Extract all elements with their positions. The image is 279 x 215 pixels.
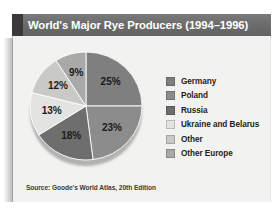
pie-svg: 25%23%18%13%12%9% (28, 50, 144, 166)
legend-item: Poland (166, 89, 270, 104)
legend-item: Other Europe (166, 147, 270, 162)
legend: GermanyPolandRussiaUkraine and BelarusOt… (166, 74, 270, 161)
pie-slice-label: 18% (61, 130, 81, 141)
legend-swatch-icon (166, 77, 175, 86)
legend-item: Ukraine and Belarus (166, 118, 270, 133)
legend-swatch-icon (166, 135, 175, 144)
pie-slice-label: 9% (69, 67, 84, 78)
pie-slice-label: 12% (48, 80, 68, 91)
source-note: Source: Goode's World Atlas, 20th Editio… (26, 184, 156, 191)
legend-item: Russia (166, 103, 270, 118)
legend-swatch-icon (166, 120, 175, 129)
pie-slice-label: 23% (102, 122, 122, 133)
legend-swatch-icon (166, 106, 175, 115)
rye-producers-figure: World's Major Rye Producers (1994–1996) … (0, 0, 279, 215)
legend-item-label: Other (181, 135, 203, 144)
legend-item-label: Russia (181, 106, 208, 115)
chart-title-bar: World's Major Rye Producers (1994–1996) (12, 14, 271, 36)
legend-swatch-icon (166, 91, 175, 100)
pie-slice-label: 25% (101, 76, 121, 87)
legend-item-label: Ukraine and Belarus (181, 120, 259, 129)
panel-drop-shadow (3, 38, 13, 202)
legend-item: Germany (166, 74, 270, 89)
page-title: World's Major Rye Producers (1994–1996) (28, 14, 267, 36)
legend-item: Other (166, 132, 270, 147)
legend-item-label: Other Europe (181, 149, 233, 158)
pie-chart: 25%23%18%13%12%9% (28, 50, 144, 166)
legend-item-label: Germany (181, 77, 216, 86)
legend-item-label: Poland (181, 91, 208, 100)
legend-swatch-icon (166, 149, 175, 158)
title-accent-block (12, 14, 23, 36)
pie-slice (86, 106, 142, 160)
pie-slice-label: 13% (42, 105, 62, 116)
